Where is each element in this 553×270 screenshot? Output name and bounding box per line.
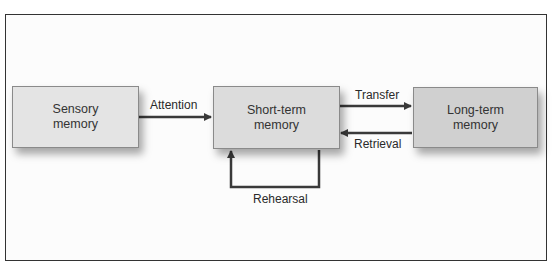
short-term-memory-label-line1: Short-term xyxy=(247,103,306,118)
sensory-memory-label-line2: memory xyxy=(53,117,99,132)
long-term-memory-label-line1: Long-term xyxy=(447,103,504,118)
sensory-memory-label-line1: Sensory xyxy=(53,102,99,117)
rehearsal-arrow xyxy=(231,150,319,187)
sensory-memory-node: Sensory memory xyxy=(12,86,139,148)
short-term-memory-label-line2: memory xyxy=(247,118,306,133)
retrieval-label: Retrieval xyxy=(354,137,401,151)
rehearsal-label: Rehearsal xyxy=(253,192,308,206)
long-term-memory-label-line2: memory xyxy=(447,118,504,133)
transfer-label: Transfer xyxy=(355,88,399,102)
attention-label: Attention xyxy=(150,98,197,112)
long-term-memory-node: Long-term memory xyxy=(413,87,538,148)
short-term-memory-node: Short-term memory xyxy=(213,86,340,149)
